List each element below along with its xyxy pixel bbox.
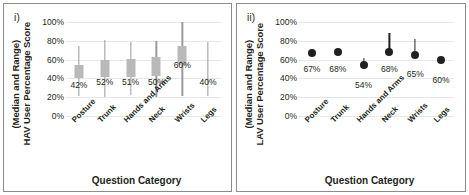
y-tick-label: 100% bbox=[42, 17, 64, 27]
y-tick-label: 0% bbox=[52, 111, 64, 121]
y-tick-label: 40% bbox=[280, 73, 297, 83]
data-label: 42% bbox=[70, 80, 87, 90]
data-label: 40% bbox=[200, 77, 217, 87]
y-tick-label: 80% bbox=[47, 36, 64, 46]
x-axis-title-i: Question Category bbox=[44, 175, 229, 186]
chart-panel-i: i) (Median and Range) HAV User Percentag… bbox=[3, 3, 232, 192]
chart-panel-ii: ii) (Median and Range) LAV User Percenta… bbox=[236, 3, 466, 192]
y-tick-label: 40% bbox=[47, 73, 64, 83]
y-tick-label: 80% bbox=[280, 36, 297, 46]
median-box bbox=[74, 65, 83, 78]
x-axis-tick-labels-i: PostureTrunkHands and ArmsNeckWristsLegs bbox=[66, 118, 221, 168]
median-box bbox=[100, 60, 109, 78]
median-dot bbox=[385, 48, 393, 56]
figure-two-panel-chart: i) (Median and Range) HAV User Percentag… bbox=[0, 0, 469, 195]
median-box bbox=[126, 59, 135, 77]
data-label: 68% bbox=[381, 64, 398, 74]
median-dot bbox=[308, 49, 316, 57]
data-label: 68% bbox=[329, 64, 346, 74]
median-dot bbox=[334, 48, 342, 56]
y-tick-label: 60% bbox=[47, 55, 64, 65]
gridline bbox=[66, 116, 221, 117]
gridline bbox=[299, 116, 454, 117]
range-whisker bbox=[207, 42, 208, 97]
data-label: 65% bbox=[407, 69, 424, 79]
data-label: 51% bbox=[122, 77, 139, 87]
median-dot bbox=[411, 51, 419, 59]
y-tick-label: 60% bbox=[280, 55, 297, 65]
median-box bbox=[152, 57, 161, 76]
y-tick-label: 100% bbox=[275, 17, 297, 27]
y-axis-tick-labels-ii: 0%20%40%60%80%100% bbox=[257, 22, 297, 116]
y-tick-label: 20% bbox=[47, 92, 64, 102]
data-label: 60% bbox=[433, 75, 450, 85]
y-axis-title-line2-ii: (Median and Range) bbox=[243, 40, 254, 128]
x-axis-title-ii: Question Category bbox=[277, 175, 462, 186]
median-dot bbox=[360, 61, 368, 69]
data-label: 60% bbox=[174, 60, 191, 70]
y-tick-label: 20% bbox=[280, 92, 297, 102]
series-mark: 60% bbox=[428, 22, 454, 116]
data-label: 54% bbox=[355, 80, 372, 90]
data-label: 67% bbox=[303, 64, 320, 74]
median-dot bbox=[437, 56, 445, 64]
x-axis-tick-labels-ii: PostureTrunkHands and ArmsNeckWristsLegs bbox=[299, 118, 454, 168]
y-axis-tick-labels-i: 0%20%40%60%80%100% bbox=[24, 22, 64, 116]
data-label: 52% bbox=[96, 77, 113, 87]
y-tick-label: 0% bbox=[285, 111, 297, 121]
series-mark: 40% bbox=[195, 22, 221, 116]
y-axis-title-line2-i: (Median and Range) bbox=[10, 40, 21, 128]
